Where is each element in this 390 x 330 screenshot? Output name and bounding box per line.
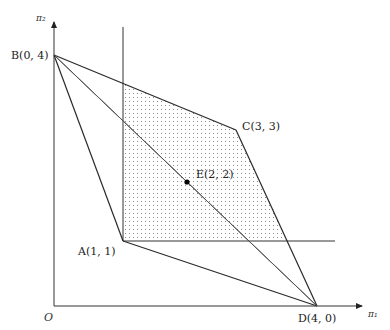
diagram-canvas: π₂ π₁ O B(0, 4) C(3, 3) E(2, 2) A(1, 1) …: [0, 0, 390, 330]
point-e-label: E(2, 2): [196, 169, 234, 180]
point-e-marker: [184, 179, 189, 184]
segment-b-a: [54, 55, 123, 241]
point-c-label: C(3, 3): [242, 121, 280, 132]
x-axis-label: π₁: [368, 310, 378, 319]
origin-label: O: [44, 312, 53, 323]
y-axis-label: π₂: [36, 14, 46, 23]
diagram-svg: [0, 0, 390, 330]
segment-a-d: [123, 241, 317, 306]
point-a-label: A(1, 1): [78, 246, 116, 257]
feasible-region-shading: [123, 84, 288, 241]
point-b-label: B(0, 4): [11, 50, 49, 61]
point-d-label: D(4, 0): [298, 313, 336, 324]
